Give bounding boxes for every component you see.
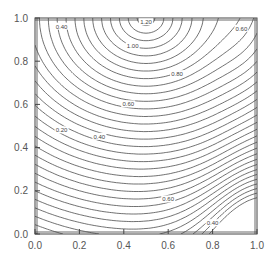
x-tick-label: 0.6 <box>161 240 175 251</box>
contour-label: 0.60 <box>122 101 134 107</box>
contour-line <box>35 165 257 215</box>
x-tick-label: 0.4 <box>117 240 131 251</box>
x-tick-label: 1.0 <box>250 240 264 251</box>
contour-label: 1.00 <box>127 43 139 49</box>
contour-label: 0.40 <box>56 24 68 30</box>
contour-line <box>35 142 257 184</box>
contour-label: 0.20 <box>56 127 68 133</box>
contour-labels: 0.401.001.200.600.800.600.200.400.600.40 <box>55 18 249 226</box>
contour-label: 1.20 <box>140 19 152 25</box>
contour-label: 0.80 <box>171 71 183 77</box>
x-tick-label: 0.0 <box>28 240 42 251</box>
x-tick-label: 0.2 <box>72 240 86 251</box>
contour-line <box>209 198 257 234</box>
contour-label: 0.40 <box>207 220 219 226</box>
y-tick-label: 1.0 <box>14 13 28 24</box>
contour-line <box>35 159 257 206</box>
y-tick-label: 0.2 <box>14 185 28 196</box>
y-tick-label: 0.6 <box>14 99 28 110</box>
y-tick-label: 0.8 <box>14 56 28 67</box>
contour-label: 0.60 <box>236 26 248 32</box>
contour-lines <box>35 18 257 234</box>
y-tick-label: 0.4 <box>14 142 28 153</box>
contour-line <box>35 129 257 169</box>
x-tick-label: 0.8 <box>206 240 220 251</box>
contour-line <box>35 115 257 154</box>
contour-line <box>35 105 257 146</box>
contour-label: 0.60 <box>162 196 174 202</box>
y-tick-label: 0.0 <box>14 229 28 240</box>
contour-label: 0.40 <box>94 134 106 140</box>
contour-plot: 0.00.20.40.60.81.00.00.20.40.60.81.0 0.4… <box>0 0 266 259</box>
contour-line <box>57 18 257 94</box>
contour-line <box>35 66 257 124</box>
